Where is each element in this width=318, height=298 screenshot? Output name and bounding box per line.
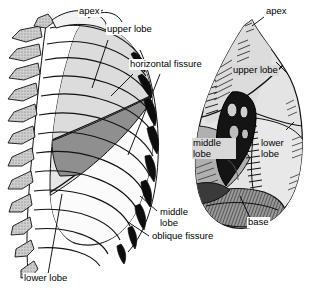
label-middle-lobe-left: middle lobe (159, 207, 203, 228)
vertebral-column (8, 14, 54, 278)
lung-anatomy-figure: apex upper lobe horizontal fissure middl… (0, 0, 318, 298)
rib-cage-assembly (8, 0, 170, 278)
label-oblique-fissure: oblique fissure (151, 231, 214, 242)
label-horizontal-fissure: horizontal fissure (129, 59, 203, 70)
lung-medial-assembly (190, 16, 306, 228)
label-apex-left: apex (78, 6, 101, 17)
label-apex-right: apex (265, 6, 288, 17)
label-middle-lobe-right: middle lobe (192, 138, 236, 159)
label-lower-lobe-left: lower lobe (23, 273, 68, 284)
label-upper-lobe-left: upper lobe (106, 24, 153, 35)
label-lower-lobe-right: lower lobe (261, 138, 303, 159)
label-base: base (247, 217, 270, 228)
leader-apex-right (252, 17, 264, 26)
label-upper-lobe-right: upper lobe (232, 65, 279, 76)
